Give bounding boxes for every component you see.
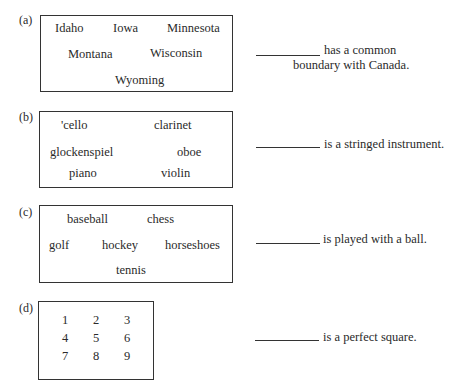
word: horseshoes bbox=[165, 238, 220, 253]
statement-text: boundary with Canada. bbox=[293, 58, 409, 73]
word: tennis bbox=[116, 263, 146, 278]
word: baseball bbox=[67, 212, 108, 227]
word: oboe bbox=[177, 145, 201, 160]
word: glockenspiel bbox=[50, 145, 113, 160]
number: 7 bbox=[62, 349, 68, 364]
word: Montana bbox=[68, 47, 112, 62]
item-label: (c) bbox=[19, 205, 32, 220]
word: Wyoming bbox=[115, 73, 164, 88]
number: 8 bbox=[93, 349, 99, 364]
word: piano bbox=[69, 166, 97, 181]
word: Idaho bbox=[55, 21, 83, 36]
answer-blank[interactable] bbox=[256, 243, 320, 244]
number: 5 bbox=[93, 331, 99, 346]
statement-text: is a stringed instrument. bbox=[324, 137, 444, 152]
word: violin bbox=[161, 166, 190, 181]
answer-blank[interactable] bbox=[255, 340, 319, 341]
statement-text: is played with a ball. bbox=[323, 232, 427, 247]
number: 3 bbox=[124, 313, 130, 328]
word: golf bbox=[49, 238, 69, 253]
word: 'cello bbox=[61, 118, 88, 133]
number: 2 bbox=[93, 313, 99, 328]
item-label: (b) bbox=[19, 110, 33, 125]
word: Minnesota bbox=[167, 21, 220, 36]
number: 9 bbox=[124, 349, 130, 364]
word: Wisconsin bbox=[150, 46, 202, 61]
word: chess bbox=[147, 212, 174, 227]
word: Iowa bbox=[113, 21, 138, 36]
answer-blank[interactable] bbox=[256, 147, 320, 148]
word: clarinet bbox=[154, 118, 191, 133]
statement-text: is a perfect square. bbox=[323, 330, 417, 345]
number: 6 bbox=[124, 331, 130, 346]
statement-text: has a common bbox=[324, 43, 396, 58]
number: 4 bbox=[62, 331, 68, 346]
number: 1 bbox=[62, 313, 68, 328]
answer-blank[interactable] bbox=[256, 55, 320, 56]
item-label: (a) bbox=[19, 13, 32, 28]
word: hockey bbox=[102, 238, 138, 253]
item-label: (d) bbox=[19, 301, 33, 316]
